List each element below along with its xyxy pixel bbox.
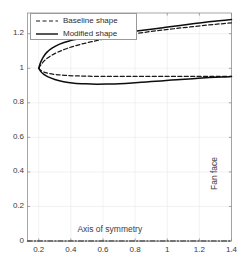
legend-swatch-solid — [35, 29, 59, 39]
y-tick-label: 0.8 — [13, 97, 24, 106]
chart-legend[interactable]: Baseline shape Modified shape — [30, 13, 137, 40]
x-tick-label: 0.6 — [88, 245, 118, 254]
figure-canvas: 00.20.40.60.811.2 0.20.40.60.811.21.4 Ax… — [0, 0, 250, 275]
legend-label-baseline: Baseline shape — [63, 16, 118, 26]
y-tick-label: 1 — [20, 63, 24, 72]
axis-of-symmetry-label: Axis of symmetry — [77, 224, 142, 234]
legend-item-baseline[interactable]: Baseline shape — [35, 14, 118, 27]
x-tick-label: 1 — [152, 245, 182, 254]
y-tick-label: 0 — [20, 236, 24, 245]
y-tick-label: 0.6 — [13, 132, 24, 141]
legend-swatch-dashed — [35, 16, 59, 26]
x-tick-label: 0.8 — [120, 245, 150, 254]
y-tick-label: 0.2 — [13, 201, 24, 210]
y-tick-label: 1.2 — [13, 28, 24, 37]
x-tick-label: 0.4 — [56, 245, 86, 254]
legend-item-modified[interactable]: Modified shape — [35, 27, 117, 40]
fan-face-label: Fan face — [209, 156, 219, 189]
x-tick-label: 1.2 — [184, 245, 214, 254]
legend-label-modified: Modified shape — [63, 29, 117, 39]
gridlines — [28, 13, 232, 241]
x-tick-label: 1.4 — [217, 245, 247, 254]
y-tick-label: 0.4 — [13, 166, 24, 175]
data-series — [28, 20, 232, 241]
x-tick-label: 0.2 — [24, 245, 54, 254]
